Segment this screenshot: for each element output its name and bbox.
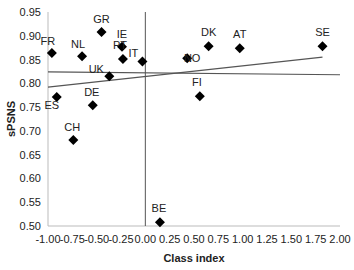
x-tick-label: 0.25 bbox=[159, 233, 180, 245]
point-label: CH bbox=[64, 121, 80, 133]
x-tick-label: 1.25 bbox=[256, 233, 277, 245]
y-tick-label: 0.65 bbox=[20, 149, 41, 161]
y-tick-label: 0.75 bbox=[20, 101, 41, 113]
x-tick-label: 1.75 bbox=[305, 233, 326, 245]
point-label: GR bbox=[93, 13, 110, 25]
point-label: DE bbox=[84, 86, 99, 98]
y-tick-label: 0.70 bbox=[20, 125, 41, 137]
scatter-chart: 0.500.550.600.650.700.750.800.850.900.95… bbox=[0, 0, 354, 270]
y-tick-label: 0.80 bbox=[20, 77, 41, 89]
y-tick-label: 0.55 bbox=[20, 196, 41, 208]
axes bbox=[48, 12, 340, 226]
y-tick-label: 0.90 bbox=[20, 30, 41, 42]
x-tick-label: 1.50 bbox=[281, 233, 302, 245]
x-tick-label: 0.50 bbox=[183, 233, 204, 245]
point-label: PT bbox=[113, 39, 127, 51]
point-label: FI bbox=[192, 76, 202, 88]
point-label: NO bbox=[184, 52, 201, 64]
data-point-pt bbox=[118, 54, 128, 64]
point-label: DK bbox=[201, 26, 217, 38]
x-tick-label: -1.00 bbox=[35, 233, 60, 245]
y-axis-title: sPSNS bbox=[5, 101, 17, 137]
point-label: ES bbox=[44, 99, 59, 111]
y-tick-label: 0.85 bbox=[20, 54, 41, 66]
x-axis-title: Class index bbox=[163, 252, 225, 264]
point-label: IE bbox=[117, 28, 127, 40]
x-tick-label: 0.75 bbox=[208, 233, 229, 245]
data-point-fi bbox=[195, 91, 205, 101]
y-tick-labels: 0.500.550.600.650.700.750.800.850.900.95 bbox=[20, 6, 41, 232]
data-point-it bbox=[137, 56, 147, 66]
data-point-se bbox=[317, 41, 327, 51]
x-tick-label: 1.00 bbox=[232, 233, 253, 245]
data-point-de bbox=[88, 100, 98, 110]
reference-lines bbox=[48, 12, 340, 226]
point-label: NL bbox=[71, 38, 85, 50]
x-tick-label: -0.75 bbox=[60, 233, 85, 245]
x-tick-label: 0.00 bbox=[135, 233, 156, 245]
x-tick-label: 2.00 bbox=[329, 233, 350, 245]
data-point-nl bbox=[77, 51, 87, 61]
data-point-ch bbox=[68, 135, 78, 145]
point-label: IT bbox=[129, 47, 139, 59]
point-label: AT bbox=[233, 28, 247, 40]
point-label: BE bbox=[152, 202, 167, 214]
y-tick-label: 0.95 bbox=[20, 6, 41, 18]
data-point-gr bbox=[97, 27, 107, 37]
x-tick-labels: -1.00-0.75-0.50-0.250.000.250.500.751.00… bbox=[35, 233, 350, 245]
y-tick-label: 0.50 bbox=[20, 220, 41, 232]
x-tick-label: -0.50 bbox=[84, 233, 109, 245]
x-tick-label: -0.25 bbox=[108, 233, 133, 245]
point-label: FR bbox=[41, 35, 56, 47]
point-label: UK bbox=[89, 63, 105, 75]
point-label: SE bbox=[315, 26, 330, 38]
data-point-dk bbox=[204, 41, 214, 51]
data-points: FRNLGRIEPTUKITESDECHBENOFIDKATSE bbox=[41, 13, 330, 227]
y-tick-label: 0.60 bbox=[20, 172, 41, 184]
data-point-at bbox=[235, 43, 245, 53]
